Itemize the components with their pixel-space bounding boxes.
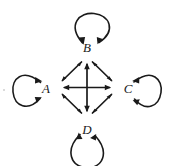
edge-b-d-arrowhead-at-b	[84, 63, 90, 69]
edge-b-d-arrowhead-at-d	[84, 106, 90, 112]
graph-canvas	[0, 0, 174, 166]
self-loop-a	[13, 75, 42, 106]
edge-c-d	[92, 94, 113, 114]
node-label-c: C	[124, 82, 133, 95]
self-loop-c	[132, 75, 161, 106]
edge-d-a	[62, 94, 82, 114]
self-loop-b	[75, 13, 109, 44]
edge-b-c	[92, 61, 113, 81]
self-loop-d	[71, 133, 103, 166]
edge-a-c-arrowhead-at-a	[63, 85, 69, 91]
self-loop-c-arrowhead-top	[132, 77, 139, 83]
graph-figure: A B C D	[0, 0, 174, 166]
self-loop-d-curve	[71, 135, 103, 167]
edge-a-b	[62, 61, 82, 81]
node-label-a: A	[42, 82, 50, 95]
node-label-d: D	[82, 123, 91, 136]
edge-a-c-arrowhead-at-c	[105, 85, 111, 91]
node-label-b: B	[83, 41, 91, 54]
